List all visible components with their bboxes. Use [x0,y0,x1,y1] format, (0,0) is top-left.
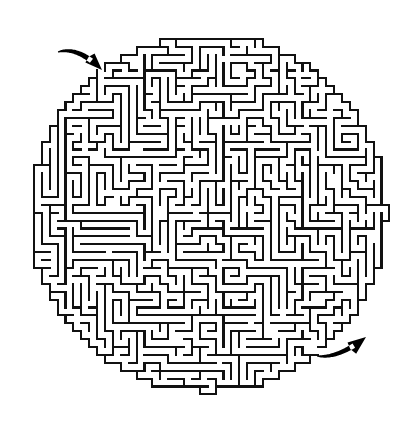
maze-puzzle-stage: A round hedge-style maze drawn as black … [0,0,414,430]
circular-maze-figure [0,0,414,430]
